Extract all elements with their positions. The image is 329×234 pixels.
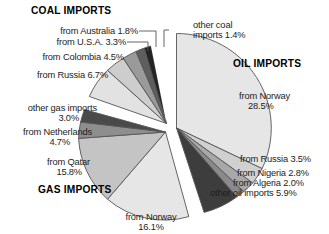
label-coal-from-russia: from Russia 6.7%: [0, 70, 108, 81]
label-oil-from-algeria: from Algeria 2.0%: [233, 178, 304, 189]
group-title-gas: GAS IMPORTS: [38, 184, 112, 195]
label-oil-from-norway-line2: 28.5%: [248, 101, 274, 112]
label-gas-other-imports-line2: 3.0%: [0, 113, 79, 124]
label-gas-other-imports-line1: other gas imports: [0, 103, 97, 114]
label-oil-from-norway-line1: from Norway: [239, 91, 290, 102]
label-oil-from-nigeria: from Nigeria 2.8%: [237, 168, 309, 179]
pie-chart-figure: COAL IMPORTS OIL IMPORTS GAS IMPORTS fro…: [0, 0, 329, 234]
leader-line-australia: [139, 31, 156, 47]
label-gas-from-norway-line1: from Norway: [106, 212, 196, 223]
label-coal-from-australia: from Australia 1.8%: [0, 26, 138, 37]
label-coal-from-usa: from U.S.A. 3.3%: [0, 37, 126, 48]
label-oil-from-russia: from Russia 3.5%: [240, 154, 311, 165]
label-coal-other-imports-line2: imports 1.4%: [193, 30, 245, 41]
label-coal-other-imports-line1: other coal: [193, 20, 232, 31]
label-gas-from-qatar-line1: from Qatar: [0, 157, 90, 168]
group-title-oil: OIL IMPORTS: [233, 58, 301, 69]
group-title-coal: COAL IMPORTS: [31, 5, 111, 16]
pie-group-gas: [79, 110, 189, 220]
label-coal-from-colombia: from Colombia 4.5%: [0, 52, 124, 63]
label-gas-from-norway-line2: 16.1%: [106, 222, 196, 233]
label-gas-from-netherlands-line2: 4.7%: [0, 137, 70, 148]
label-oil-other-imports: other oil imports 5.9%: [210, 188, 297, 199]
label-gas-from-qatar-line2: 15.8%: [0, 167, 82, 178]
label-gas-from-netherlands-line1: from Netherlands: [0, 127, 92, 138]
